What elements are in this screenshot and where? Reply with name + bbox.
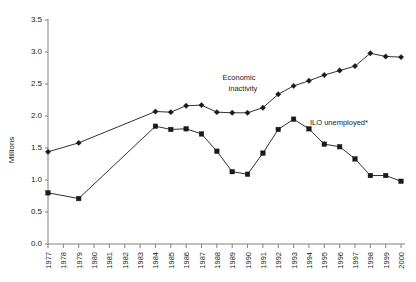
data-point-marker bbox=[46, 191, 51, 196]
x-tick-label: 1997 bbox=[351, 252, 360, 269]
data-point-marker bbox=[184, 127, 189, 132]
x-tick-label: 1999 bbox=[382, 252, 391, 269]
data-point-marker bbox=[398, 54, 403, 59]
x-tick-label: 1978 bbox=[59, 252, 68, 269]
data-point-marker bbox=[45, 149, 50, 154]
annotation-economic-inactivity-line2: inactivity bbox=[229, 84, 258, 93]
x-tick-label: 1988 bbox=[213, 252, 222, 269]
x-tick-label: 1982 bbox=[121, 252, 130, 269]
y-axis-title: Millions bbox=[7, 137, 16, 164]
data-point-marker bbox=[199, 102, 204, 107]
data-point-marker bbox=[322, 142, 327, 147]
data-point-marker bbox=[306, 78, 311, 83]
data-point-marker bbox=[291, 117, 296, 122]
data-point-marker bbox=[261, 151, 266, 156]
y-tick-label: 0.5 bbox=[31, 207, 43, 216]
series-line-2 bbox=[48, 119, 401, 198]
y-tick-label: 3.0 bbox=[31, 47, 43, 56]
x-tick-label: 1985 bbox=[167, 252, 176, 269]
data-point-marker bbox=[383, 173, 388, 178]
data-point-marker bbox=[153, 109, 158, 114]
data-point-marker bbox=[353, 157, 358, 162]
data-point-marker bbox=[276, 127, 281, 132]
data-point-marker bbox=[153, 124, 158, 129]
data-point-marker bbox=[230, 169, 235, 174]
line-chart: 0.00.51.01.52.02.53.03.5Millions19771978… bbox=[0, 0, 416, 282]
x-tick-label: 2000 bbox=[397, 252, 406, 269]
x-tick-label: 1984 bbox=[151, 252, 160, 269]
data-point-marker bbox=[199, 132, 204, 137]
data-point-marker bbox=[214, 109, 219, 114]
data-point-marker bbox=[76, 140, 81, 145]
annotation-economic-inactivity-line1: Economic bbox=[223, 73, 256, 82]
data-point-marker bbox=[383, 54, 388, 59]
y-tick-label: 0.0 bbox=[31, 239, 43, 248]
y-tick-label: 1.0 bbox=[31, 175, 43, 184]
data-point-marker bbox=[307, 127, 312, 132]
data-point-marker bbox=[337, 68, 342, 73]
data-point-marker bbox=[337, 144, 342, 149]
x-tick-label: 1987 bbox=[198, 252, 207, 269]
x-tick-label: 1998 bbox=[366, 252, 375, 269]
data-point-marker bbox=[168, 109, 173, 114]
data-point-marker bbox=[368, 173, 373, 178]
data-point-marker bbox=[399, 179, 404, 184]
data-point-marker bbox=[245, 172, 250, 177]
x-tick-label: 1989 bbox=[228, 252, 237, 269]
series-line-1 bbox=[48, 53, 401, 152]
x-tick-label: 1979 bbox=[75, 252, 84, 269]
y-tick-label: 2.0 bbox=[31, 111, 43, 120]
annotation-ilo-unemployed: ILO unemployed* bbox=[310, 118, 368, 127]
data-point-marker bbox=[215, 149, 220, 154]
x-tick-label: 1977 bbox=[44, 252, 53, 269]
x-tick-label: 1986 bbox=[182, 252, 191, 269]
x-tick-label: 1994 bbox=[305, 252, 314, 269]
x-tick-label: 1996 bbox=[336, 252, 345, 269]
data-point-marker bbox=[76, 196, 81, 201]
x-tick-label: 1990 bbox=[244, 252, 253, 269]
data-point-marker bbox=[291, 83, 296, 88]
x-tick-label: 1980 bbox=[90, 252, 99, 269]
data-point-marker bbox=[245, 110, 250, 115]
x-tick-label: 1991 bbox=[259, 252, 268, 269]
data-point-marker bbox=[322, 72, 327, 77]
x-tick-label: 1993 bbox=[290, 252, 299, 269]
x-tick-label: 1983 bbox=[136, 252, 145, 269]
x-tick-label: 1995 bbox=[320, 252, 329, 269]
y-tick-label: 3.5 bbox=[31, 15, 43, 24]
data-point-marker bbox=[230, 110, 235, 115]
data-point-marker bbox=[183, 103, 188, 108]
x-tick-label: 1981 bbox=[105, 252, 114, 269]
data-point-marker bbox=[169, 127, 174, 132]
chart-container: 0.00.51.01.52.02.53.03.5Millions19771978… bbox=[0, 0, 416, 282]
x-tick-label: 1992 bbox=[274, 252, 283, 269]
y-tick-label: 2.5 bbox=[31, 79, 43, 88]
y-tick-label: 1.5 bbox=[31, 143, 43, 152]
